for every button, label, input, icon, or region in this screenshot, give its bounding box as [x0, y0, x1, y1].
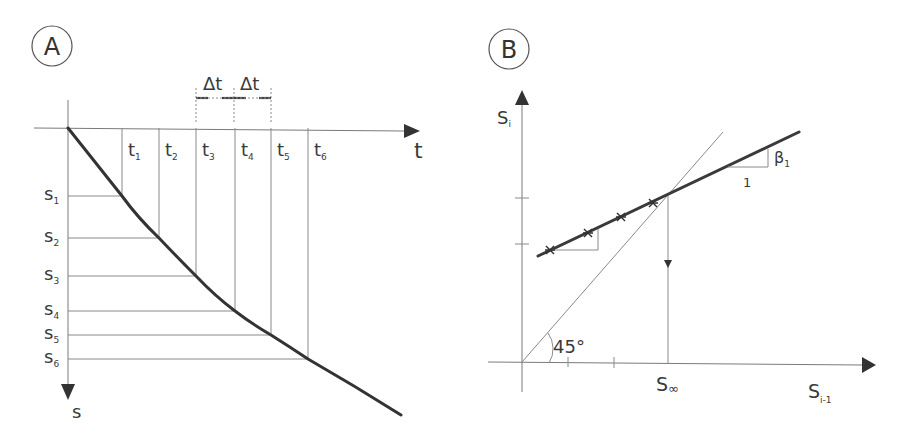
delta-t-markers: Δt Δt: [196, 73, 271, 124]
panel-b: B Si Si-1 45° S∞ β1 1: [488, 29, 876, 405]
s-infinity-label: S∞: [656, 373, 679, 396]
settlement-label: s6: [44, 346, 59, 369]
slope-run-label: 1: [743, 175, 751, 190]
s-axis-arrow-icon: [61, 384, 75, 400]
t-axis-arrow-icon: [404, 124, 420, 138]
t-axis-label: t: [414, 138, 423, 163]
time-label: t5: [277, 139, 290, 162]
data-point-star-icon: [583, 229, 593, 237]
si-axis-arrow-icon: [515, 90, 529, 105]
settlement-label: s1: [44, 183, 59, 206]
time-label: t6: [314, 139, 327, 162]
settlement-label: s5: [44, 322, 59, 345]
si-axis-label: Si: [497, 107, 511, 129]
data-point-star-icon: [545, 246, 555, 254]
time-labels: t1t2t3t4t5t6: [128, 139, 327, 162]
si-1-axis-arrow-icon: [862, 357, 876, 373]
settlement-label: s2: [44, 225, 59, 248]
time-label: t4: [241, 139, 254, 162]
s-axis-label: s: [72, 401, 81, 422]
settlement-labels: s1s2s3s4s5s6: [44, 183, 59, 369]
panel-a: A t s Δt Δt t1t2t3t4t5t6 s1s2s3s4s5s6: [32, 26, 423, 422]
projection-arrow-icon: [664, 260, 672, 268]
time-label: t2: [165, 139, 178, 162]
t-axis: [34, 128, 404, 131]
time-label: t1: [128, 139, 141, 162]
delta-t-label-1: Δt: [203, 73, 222, 94]
si-1-axis-label: Si-1: [808, 380, 832, 405]
settlement-label: s3: [44, 263, 59, 286]
panel-b-badge: B: [501, 36, 517, 64]
si-1-axis: [488, 362, 862, 365]
settlement-label: s4: [44, 298, 59, 321]
panel-a-badge: A: [44, 33, 61, 61]
time-label: t3: [202, 139, 215, 162]
time-gridlines: [122, 128, 308, 359]
slope-label: β1: [774, 148, 790, 169]
diagram-canvas: A t s Δt Δt t1t2t3t4t5t6 s1s2s3s4s5s6: [0, 0, 914, 447]
angle-label: 45°: [553, 336, 585, 357]
data-point-star-icon: [616, 213, 626, 221]
delta-t-label-2: Δt: [240, 73, 259, 94]
